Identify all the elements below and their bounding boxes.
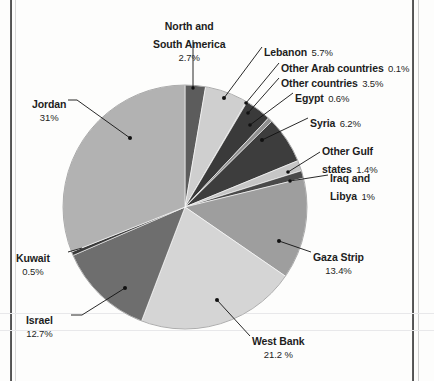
- pie-label-other-countries-percent: 3.5%: [362, 78, 383, 89]
- leader-dot-north-south-america: [191, 86, 194, 89]
- pie-label-iraq-and-libya-line1: Iraq and: [330, 172, 370, 184]
- pie-label-kuwait: Kuwait 0.5%: [16, 248, 50, 278]
- pie-label-iraq-and-libya: Iraq and Libya 1%: [330, 168, 375, 204]
- pie-label-gaza-strip: Gaza Strip 13.4%: [313, 247, 364, 277]
- pie-label-egypt-name: Egypt: [295, 92, 324, 104]
- pie-slice-group: [63, 85, 307, 329]
- pie-label-lebanon-name: Lebanon: [264, 46, 307, 58]
- leader-dot-syria: [260, 138, 264, 142]
- pie-label-north-south-america-percent: 2.7%: [153, 53, 225, 64]
- pie-label-israel: Israel 12.7%: [26, 310, 53, 340]
- pie-label-west-bank-name: West Bank: [252, 335, 305, 347]
- pie-label-iraq-and-libya-percent: 1%: [361, 191, 375, 202]
- pie-label-kuwait-percent: 0.5%: [16, 267, 50, 278]
- pie-label-west-bank: West Bank 21.2 %: [252, 331, 305, 361]
- pie-label-iraq-and-libya-line2: Libya: [330, 190, 357, 202]
- pie-label-egypt: Egypt 0.6%: [295, 88, 349, 106]
- leader-dot-israel: [123, 286, 127, 290]
- pie-label-israel-name: Israel: [26, 314, 53, 326]
- leader-dot-west-bank: [215, 298, 219, 302]
- pie-label-israel-percent: 12.7%: [26, 329, 53, 340]
- leader-dot-other-gulf: [286, 170, 290, 174]
- pie-label-north-south-america: North and South America 2.7%: [153, 16, 225, 63]
- pie-label-jordan-percent: 31%: [32, 113, 66, 124]
- pie-label-syria-name: Syria: [310, 117, 335, 129]
- pie-label-north-south-america-line2: South America: [153, 38, 225, 50]
- leader-dot-egypt: [248, 123, 252, 127]
- pie-label-other-gulf-states-line1: Other Gulf: [322, 145, 373, 157]
- leader-dot-other-arab: [244, 101, 248, 105]
- pie-chart-page: North and South America 2.7% Jordan 31% …: [0, 0, 434, 381]
- pie-label-jordan-name: Jordan: [32, 98, 66, 110]
- pie-label-syria: Syria 6.2%: [310, 113, 361, 131]
- leader-dot-gaza: [277, 239, 281, 243]
- pie-label-gaza-strip-name: Gaza Strip: [313, 251, 364, 263]
- pie-label-north-south-america-line1: North and: [165, 20, 214, 32]
- pie-label-syria-percent: 6.2%: [340, 118, 361, 129]
- pie-label-kuwait-name: Kuwait: [16, 252, 50, 264]
- pie-label-lebanon-percent: 5.7%: [312, 47, 333, 58]
- leader-dot-other-countries: [246, 111, 250, 115]
- pie-label-egypt-percent: 0.6%: [328, 93, 349, 104]
- pie-label-other-arab-countries-percent: 0.1%: [388, 63, 409, 74]
- pie-label-gaza-strip-percent: 13.4%: [313, 266, 364, 277]
- pie-label-west-bank-percent: 21.2 %: [252, 350, 305, 361]
- leader-dot-iraq-libya: [288, 179, 292, 183]
- leader-dot-lebanon: [222, 96, 226, 100]
- pie-label-jordan: Jordan 31%: [32, 94, 66, 124]
- leader-dot-jordan: [128, 136, 132, 140]
